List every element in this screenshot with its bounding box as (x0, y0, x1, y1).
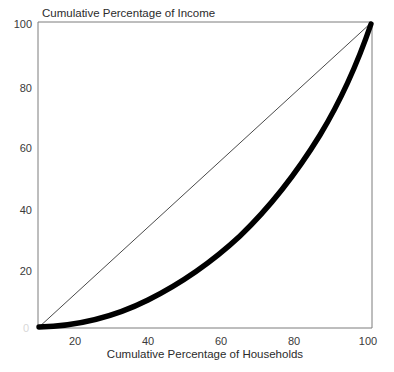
y-tick-label-20: 20 (20, 265, 32, 277)
y-tick-label-40: 40 (20, 204, 32, 216)
x-tick-label-100: 100 (359, 335, 377, 347)
chart-canvas: 0 100 80 60 40 20 20 40 60 80 100 Cumula… (0, 0, 394, 372)
x-tick-label-80: 80 (288, 335, 300, 347)
equality-line (38, 22, 372, 328)
y-tick-label-0: 0 (23, 322, 29, 334)
x-tick-label-40: 40 (142, 335, 154, 347)
chart-title: Cumulative Percentage of Income (42, 7, 215, 19)
y-tick-label-80: 80 (20, 82, 32, 94)
lorenz-curve-chart: 0 100 80 60 40 20 20 40 60 80 100 Cumula… (0, 0, 394, 372)
x-tick-label-60: 60 (215, 335, 227, 347)
x-tick-label-20: 20 (69, 335, 81, 347)
y-tick-label-100: 100 (14, 18, 32, 30)
x-axis-title: Cumulative Percentage of Households (107, 348, 304, 360)
y-tick-label-60: 60 (20, 142, 32, 154)
